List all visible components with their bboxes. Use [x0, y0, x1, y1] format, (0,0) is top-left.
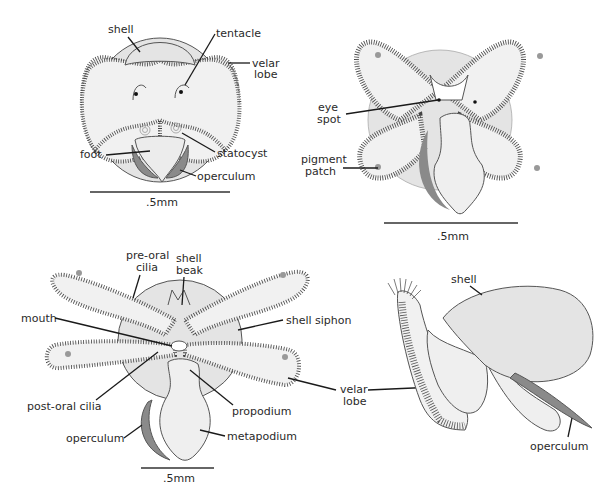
pigment-patch-lower-right — [534, 165, 540, 171]
scale-bar-label: .5mm — [146, 196, 178, 209]
label-velar-lobe-2: lobe — [254, 68, 278, 81]
label-propodium: propodium — [232, 405, 291, 418]
label-velar-lobe-2: lobe — [343, 395, 367, 408]
pigment-patch-lower-left — [375, 164, 381, 170]
label-operculum: operculum — [197, 170, 256, 183]
label-operculum: operculum — [66, 432, 125, 445]
label-pre-oral-cilia-2: cilia — [136, 261, 158, 274]
pigment-patch-4 — [282, 354, 288, 360]
pigment-patch-upper-right — [537, 53, 543, 59]
leader-operculum — [568, 418, 572, 437]
leader-shell — [470, 286, 482, 295]
eye-spot-left — [134, 92, 138, 96]
veliger-larva-figure: shell tentacle velar lobe statocyst foot… — [0, 0, 614, 498]
label-shell: shell — [451, 273, 477, 286]
leader-velar-lobe-left — [288, 378, 336, 390]
scale-bar-label: .5mm — [163, 472, 195, 485]
label-foot: foot — [80, 148, 102, 161]
pigment-patch-2 — [280, 272, 286, 278]
mouth — [171, 341, 187, 351]
label-tentacle: tentacle — [216, 27, 261, 40]
label-mouth: mouth — [21, 312, 57, 325]
leader-shell-siphon — [238, 320, 283, 330]
leader-operculum — [124, 425, 142, 438]
label-shell-siphon: shell siphon — [286, 314, 352, 327]
label-post-oral-cilia: post-oral cilia — [27, 400, 101, 413]
panel-bottom-right: shell operculum — [388, 273, 593, 453]
label-statocyst: statocyst — [217, 147, 268, 160]
label-pigment-patch-2: patch — [305, 165, 336, 178]
eye-spot-right — [179, 90, 183, 94]
panel-bottom-left: pre-oral cilia shell beak mouth shell si… — [21, 249, 352, 485]
label-shell: shell — [108, 23, 134, 36]
label-metapodium: metapodium — [227, 430, 297, 443]
pigment-patch-1 — [76, 270, 82, 276]
label-eye-spot-2: spot — [317, 113, 341, 126]
panel-top-left: shell tentacle velar lobe statocyst foot… — [80, 23, 280, 209]
pigment-patch-upper-left — [375, 52, 381, 58]
scale-bar-label: .5mm — [437, 230, 469, 243]
panel-top-right: eye spot pigment patch .5mm — [301, 42, 543, 243]
label-operculum: operculum — [530, 440, 589, 453]
pigment-patch-3 — [65, 351, 71, 357]
label-shell-beak-2: beak — [176, 264, 203, 277]
eye-spot-right — [473, 100, 477, 104]
